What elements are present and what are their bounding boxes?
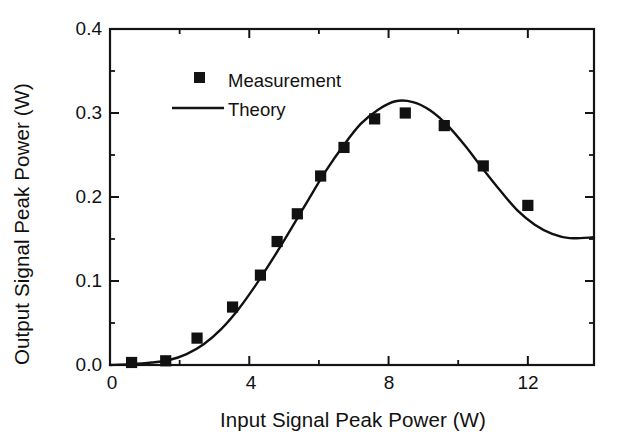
y-tick-label: 0.0 bbox=[76, 354, 102, 376]
y-tick-label: 0.2 bbox=[76, 186, 102, 208]
measurement-marker bbox=[439, 120, 450, 131]
x-axis-title: Input Signal Peak Power (W) bbox=[110, 408, 596, 432]
y-axis-tick-labels: 0.0 0.1 0.2 0.3 0.4 bbox=[46, 0, 102, 448]
measurement-marker bbox=[126, 357, 137, 368]
measurement-marker bbox=[338, 142, 349, 153]
y-tick-label: 0.1 bbox=[76, 270, 102, 292]
measurement-marker bbox=[292, 208, 303, 219]
x-tick-label: 4 bbox=[246, 372, 257, 394]
legend-label-theory: Theory bbox=[228, 99, 286, 121]
measurement-marker bbox=[160, 355, 171, 366]
x-tick-label: 0 bbox=[107, 372, 118, 394]
y-tick-label: 0.4 bbox=[76, 18, 102, 40]
x-tick-label: 12 bbox=[517, 372, 538, 394]
measurement-marker bbox=[400, 107, 411, 118]
figure-container: 0.0 0.1 0.2 0.3 0.4 0 4 8 12 Output Sign… bbox=[0, 0, 622, 448]
measurement-marker bbox=[315, 170, 326, 181]
measurement-marker bbox=[272, 236, 283, 247]
measurement-marker bbox=[369, 113, 380, 124]
y-axis-title: Output Signal Peak Power (W) bbox=[0, 0, 44, 448]
legend-marker-square bbox=[194, 72, 205, 83]
theory-curve bbox=[110, 101, 594, 365]
measurement-marker bbox=[227, 301, 238, 312]
measurement-marker bbox=[191, 333, 202, 344]
x-tick-label: 8 bbox=[384, 372, 395, 394]
measurement-marker bbox=[255, 270, 266, 281]
measurement-marker bbox=[522, 200, 533, 211]
measurement-marker bbox=[478, 160, 489, 171]
legend-label-measurement: Measurement bbox=[228, 70, 341, 92]
plot-frame bbox=[110, 29, 594, 365]
y-tick-label: 0.3 bbox=[76, 102, 102, 124]
